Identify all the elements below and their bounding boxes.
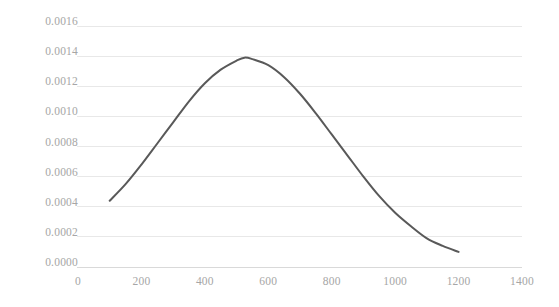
chart-canvas: [0, 0, 559, 307]
x-tick-label: 1000: [383, 276, 407, 288]
y-tick-label: 0.0014: [45, 46, 78, 58]
y-tick-label: 0.0012: [45, 77, 78, 89]
x-tick-label: 600: [259, 276, 277, 288]
gridlines-group: [77, 26, 522, 267]
y-tick-label: 0.0010: [45, 107, 78, 119]
x-tick-label: 0: [75, 276, 81, 288]
y-tick-label: 0.0006: [45, 167, 78, 179]
y-tick-label: 0.0016: [45, 16, 78, 28]
y-tick-label: 0.0004: [45, 197, 78, 209]
line-chart: 0.00000.00020.00040.00060.00080.00100.00…: [0, 0, 559, 307]
x-tick-label: 800: [323, 276, 341, 288]
x-tick-label: 1200: [447, 276, 471, 288]
x-tick-label: 1400: [510, 276, 534, 288]
x-tick-label: 200: [132, 276, 150, 288]
x-tick-label: 400: [196, 276, 214, 288]
y-tick-label: 0.0000: [45, 257, 78, 269]
y-tick-label: 0.0008: [45, 137, 78, 149]
y-tick-label: 0.0002: [45, 227, 78, 239]
